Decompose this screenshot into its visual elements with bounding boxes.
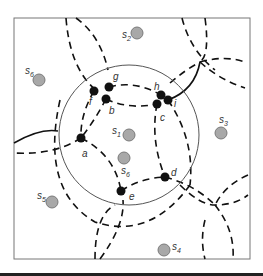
node-a <box>77 134 86 143</box>
coverage-diagram: s1s2s3s4s5s6s6 abcdefghi <box>0 0 263 276</box>
node-label: a <box>82 148 88 159</box>
node-label: c <box>160 112 165 123</box>
node-b <box>102 95 111 104</box>
sensor-s5 <box>46 196 58 208</box>
sensor-label: s6 <box>25 65 34 78</box>
sensor-label: s6 <box>121 165 130 178</box>
sensor-s1 <box>123 129 135 141</box>
sensor-s6 <box>33 74 45 86</box>
sensor-s2 <box>131 27 143 39</box>
sensor-s3 <box>215 127 227 139</box>
sensor-s4 <box>158 244 170 256</box>
node-label: e <box>129 191 135 202</box>
node-label: f <box>89 96 93 107</box>
sensor-label: s4 <box>172 241 181 254</box>
sensor-label: s3 <box>219 114 228 127</box>
node-i <box>164 96 173 105</box>
node-e <box>117 187 126 196</box>
node-label: d <box>171 167 177 178</box>
node-label: h <box>154 81 160 92</box>
node-g <box>105 83 114 92</box>
sensor-label: s2 <box>122 29 131 42</box>
node-c <box>153 100 162 109</box>
node-label: b <box>109 105 115 116</box>
node-label: i <box>174 98 177 109</box>
sensor-label: s1 <box>112 125 121 138</box>
sensor-s6b <box>118 152 130 164</box>
node-d <box>161 173 170 182</box>
node-f <box>90 87 99 96</box>
sensor-label: s5 <box>37 190 46 203</box>
node-label: g <box>113 71 119 82</box>
